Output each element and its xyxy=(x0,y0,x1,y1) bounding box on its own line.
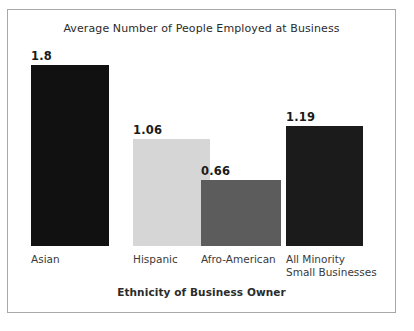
bar-value-label: 1.19 xyxy=(286,110,315,124)
bar-category-label: Asian xyxy=(31,253,60,266)
x-axis-title: Ethnicity of Business Owner xyxy=(8,286,395,298)
bar-category-label: All MinoritySmall Businesses xyxy=(286,253,377,278)
bar-value-label: 1.06 xyxy=(133,123,162,137)
bar-category-label-line: Asian xyxy=(31,253,60,266)
bar-rect[interactable] xyxy=(133,139,210,246)
bar-category-label: Afro-American xyxy=(201,253,276,266)
bar-category-label-line: All Minority xyxy=(286,253,377,266)
bar-rect[interactable] xyxy=(201,180,281,246)
bar-group: 1.19All MinoritySmall Businesses xyxy=(286,10,363,312)
chart-figure: Average Number of People Employed at Bus… xyxy=(7,9,396,313)
bar-value-label: 1.8 xyxy=(31,49,52,63)
bar-category-label-line: Hispanic xyxy=(133,253,178,266)
bar-rect[interactable] xyxy=(286,126,363,246)
bar-group: 1.8Asian xyxy=(31,10,109,312)
bar-category-label-line: Small Businesses xyxy=(286,266,377,279)
bar-rect[interactable] xyxy=(31,65,109,246)
bar-category-label: Hispanic xyxy=(133,253,178,266)
plot-area: 1.8Asian1.06Hispanic0.66Afro-American1.1… xyxy=(8,10,395,312)
bar-group: 1.06Hispanic xyxy=(133,10,210,312)
bar-group: 0.66Afro-American xyxy=(201,10,281,312)
bar-category-label-line: Afro-American xyxy=(201,253,276,266)
bar-value-label: 0.66 xyxy=(201,164,230,178)
